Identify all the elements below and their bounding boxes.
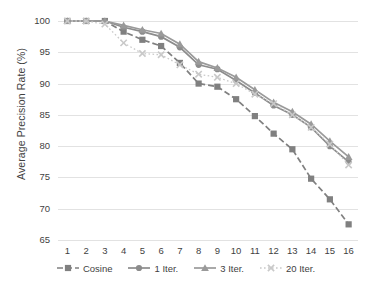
series-layer (58, 21, 358, 240)
data-point-square (139, 37, 145, 43)
y-axis-tick-label: 85 (20, 109, 50, 120)
legend-item-cosine[interactable]: Cosine (57, 262, 113, 274)
data-point-x (120, 40, 126, 46)
y-axis-tick-label: 100 (20, 15, 50, 26)
data-point-square (289, 146, 295, 152)
legend-item-3-iter[interactable]: 3 Iter. (194, 262, 244, 274)
data-point-square (158, 43, 164, 49)
data-point-square (346, 221, 352, 227)
legend-marker-triangle-icon (194, 262, 216, 274)
y-axis-tick-label: 75 (20, 171, 50, 182)
series-line (67, 21, 348, 162)
series-line (67, 21, 348, 165)
legend-label: Cosine (83, 263, 113, 274)
data-point-circle (136, 265, 142, 271)
legend-label: 3 Iter. (220, 263, 244, 274)
series-line (67, 21, 348, 224)
data-point-triangle (176, 40, 184, 47)
series-20-iter (64, 18, 352, 168)
data-point-square (327, 196, 333, 202)
legend-label: 20 Iter. (286, 263, 315, 274)
data-point-square (196, 80, 202, 86)
data-point-x (158, 52, 164, 58)
legend-marker-square-icon (57, 262, 79, 274)
chart-legend: Cosine1 Iter.3 Iter.20 Iter. (0, 262, 372, 274)
y-axis-tick-label: 95 (20, 46, 50, 57)
legend-marker-circle-icon (128, 262, 150, 274)
data-point-square (308, 176, 314, 182)
series-3-iter (64, 17, 353, 160)
gridline (58, 240, 358, 241)
data-point-triangle (232, 73, 240, 80)
chart-container: Average Precision Rate (%) 6570758085909… (0, 0, 372, 287)
y-axis-tick-label: 80 (20, 140, 50, 151)
series-line (67, 21, 348, 157)
data-point-square (214, 84, 220, 90)
y-axis-tick-label: 70 (20, 203, 50, 214)
data-point-square (252, 113, 258, 119)
data-point-x (214, 74, 220, 80)
legend-label: 1 Iter. (154, 263, 178, 274)
data-point-square (65, 265, 71, 271)
series-1-iter (64, 18, 351, 165)
data-point-square (271, 131, 277, 137)
legend-item-20-iter[interactable]: 20 Iter. (260, 262, 315, 274)
plot-area (58, 21, 358, 240)
y-axis-tick-label: 90 (20, 78, 50, 89)
legend-item-1-iter[interactable]: 1 Iter. (128, 262, 178, 274)
data-point-square (233, 96, 239, 102)
x-axis-tick-label: 16 (337, 245, 361, 256)
legend-marker-x-icon (260, 262, 282, 274)
y-axis-tick-label: 65 (20, 234, 50, 245)
